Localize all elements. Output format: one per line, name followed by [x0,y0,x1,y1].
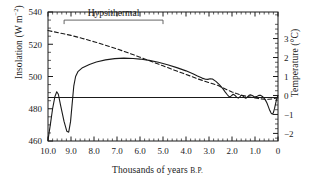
y-axis-left-tick-label: 500 [29,72,43,82]
chart-plot-area: 10.09.08.07.06.05.04.03.02.01.0054052050… [0,0,315,183]
y-axis-right-tick-label: 2 [284,53,289,63]
x-axis-tick-label: 0 [276,146,281,156]
y-axis-left-tick-label: 520 [29,40,43,50]
y-axis-right-tick-label: 0 [284,91,289,101]
x-axis-tick-label: 2.0 [226,146,238,156]
x-axis-tick-label: 9.0 [65,146,77,156]
x-axis-tick-label: 3.0 [203,146,215,156]
temperature-curve [48,58,278,140]
y-axis-right-tick-label: 3 [284,34,289,44]
hypsithermal-bracket [64,20,163,24]
y-axis-left-tick-label: 460 [29,136,43,146]
y-axis-right-tick-label: −2 [284,129,294,139]
x-axis-tick-label: 7.0 [111,146,123,156]
plot-frame [48,12,278,141]
y-axis-right-tick-label: 1 [284,72,289,82]
x-axis-tick-label: 1.0 [249,146,261,156]
x-axis-tick-label: 8.0 [88,146,100,156]
y-axis-left-tick-label: 540 [29,7,43,17]
y-axis-right-tick-label: −1 [284,110,294,120]
y-axis-left-tick-label: 480 [29,104,43,114]
x-axis-tick-label: 10.0 [40,146,56,156]
chart-figure: Insolation (W m−2) Temperature (°C) Thou… [0,0,315,183]
hypsithermal-label: Hypsithermal [88,8,140,18]
insolation-curve [48,31,278,100]
x-axis-tick-label: 6.0 [134,146,146,156]
x-axis-tick-label: 4.0 [180,146,192,156]
x-axis-tick-label: 5.0 [157,146,169,156]
